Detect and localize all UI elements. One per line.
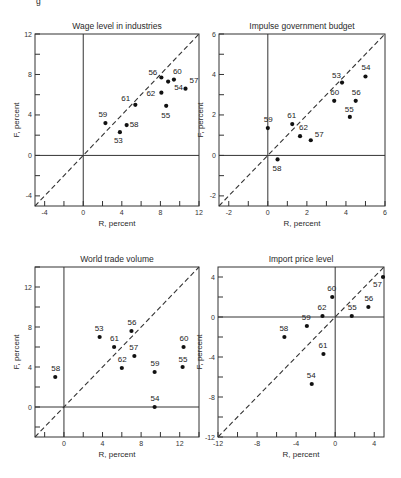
y-tick-label: 12 xyxy=(24,284,32,291)
data-point-60 xyxy=(181,345,185,349)
data-point-55 xyxy=(348,115,352,119)
y-tick-label: 0 xyxy=(211,314,215,321)
y-axis-label: F, percent xyxy=(196,102,205,138)
chart-title: Wage level in industries xyxy=(72,21,161,31)
data-point-55 xyxy=(350,314,354,318)
x-tick-label: 4 xyxy=(344,209,348,216)
data-point-56 xyxy=(354,99,358,103)
chart-title: World trade volume xyxy=(80,254,154,264)
x-tick-label: 12 xyxy=(176,440,184,447)
data-point-label: 59 xyxy=(98,110,107,119)
y-tick-label: 8 xyxy=(28,324,32,331)
y-tick-label: 0 xyxy=(212,152,216,159)
data-point-58 xyxy=(282,335,286,339)
data-point-label: 56 xyxy=(352,88,361,97)
data-point-label: 55 xyxy=(179,355,188,364)
data-point-62 xyxy=(298,134,302,138)
diagonal-reference-line xyxy=(35,34,199,206)
data-point-54 xyxy=(310,382,314,386)
data-point-label: 55 xyxy=(348,303,357,312)
x-axis-label: R, percent xyxy=(99,219,137,228)
data-point-56 xyxy=(129,329,133,333)
data-point-56 xyxy=(366,305,370,309)
data-point-61 xyxy=(321,352,325,356)
y-tick-label: -4 xyxy=(209,354,215,361)
data-point-label: 58 xyxy=(279,324,288,333)
data-point-label: 62 xyxy=(118,355,127,364)
data-point-57 xyxy=(309,138,313,142)
panel-world-trade-volume: World trade volume0481204812R, percentF,… xyxy=(12,254,199,459)
x-tick-label: 0 xyxy=(81,209,85,216)
x-tick-label: 8 xyxy=(139,440,143,447)
data-point-label: 58 xyxy=(51,364,60,373)
chart-title: Impulse government budget xyxy=(249,21,355,31)
data-point-54 xyxy=(166,79,170,83)
data-point-58 xyxy=(125,123,129,127)
y-tick-label: 4 xyxy=(212,71,216,78)
data-point-label: 59 xyxy=(302,313,311,322)
data-point-label: 54 xyxy=(361,63,370,72)
y-axis-label: F, percent xyxy=(12,102,21,138)
data-point-54 xyxy=(153,405,157,409)
data-point-label: 53 xyxy=(332,71,341,80)
data-point-label: 59 xyxy=(151,359,160,368)
diagonal-reference-line xyxy=(219,34,385,206)
x-tick-label: 4 xyxy=(101,440,105,447)
figure-header-fragment: g xyxy=(36,0,41,6)
x-tick-label: 0 xyxy=(62,440,66,447)
data-point-label: 54 xyxy=(307,371,316,380)
data-point-label: 53 xyxy=(114,136,123,145)
data-point-label: 57 xyxy=(373,280,382,289)
x-tick-label: -12 xyxy=(213,440,223,447)
x-tick-label: 0 xyxy=(333,440,337,447)
data-point-59 xyxy=(266,126,270,130)
chart-title: Import price level xyxy=(269,254,334,264)
x-tick-label: 0 xyxy=(266,209,270,216)
data-point-label: 54 xyxy=(151,394,160,403)
x-axis-label: R, percent xyxy=(284,219,322,228)
data-point-53 xyxy=(98,335,102,339)
y-tick-label: 4 xyxy=(28,364,32,371)
data-point-59 xyxy=(305,324,309,328)
data-point-label: 57 xyxy=(129,343,138,352)
y-tick-label: -4 xyxy=(26,192,32,199)
data-point-58 xyxy=(275,157,279,161)
y-tick-label: -8 xyxy=(209,394,215,401)
data-point-label: 60 xyxy=(180,334,189,343)
x-tick-label: -4 xyxy=(293,440,299,447)
data-point-56 xyxy=(159,75,163,79)
x-tick-label: -2 xyxy=(226,209,232,216)
x-axis-label: R, percent xyxy=(283,450,321,459)
data-point-60 xyxy=(330,295,334,299)
data-point-57 xyxy=(132,354,136,358)
data-point-label: 60 xyxy=(330,88,339,97)
data-point-61 xyxy=(112,345,116,349)
data-point-59 xyxy=(153,370,157,374)
diagonal-reference-line xyxy=(35,267,199,437)
data-point-label: 60 xyxy=(173,67,182,76)
x-tick-label: 4 xyxy=(120,209,124,216)
data-point-57 xyxy=(183,87,187,91)
x-tick-label: -4 xyxy=(42,209,48,216)
y-tick-label: 4 xyxy=(28,111,32,118)
data-point-label: 62 xyxy=(299,123,308,132)
data-point-label: 55 xyxy=(161,111,170,120)
y-tick-label: -2 xyxy=(210,192,216,199)
data-point-55 xyxy=(181,365,185,369)
data-point-label: 61 xyxy=(121,94,130,103)
data-point-label: 61 xyxy=(110,334,119,343)
data-point-label: 56 xyxy=(127,318,136,327)
y-tick-label: 6 xyxy=(212,31,216,38)
data-point-label: 61 xyxy=(318,341,327,350)
x-tick-label: 8 xyxy=(158,209,162,216)
figure-canvas: g Wage level in industries-404812-404812… xyxy=(0,0,401,478)
x-tick-label: 2 xyxy=(305,209,309,216)
panel-wage-level: Wage level in industries-404812-404812R,… xyxy=(12,21,203,228)
data-point-62 xyxy=(320,314,324,318)
panel-import-price-level: Import price level-12-8-404-12-8-404R, p… xyxy=(195,254,385,459)
data-point-label: 57 xyxy=(189,76,198,85)
y-tick-label: 0 xyxy=(28,152,32,159)
y-axis-label: F, percent xyxy=(12,334,21,370)
data-point-53 xyxy=(118,130,122,134)
panel-impulse-government-budget: Impulse government budget-20246-20246R, … xyxy=(196,21,387,228)
